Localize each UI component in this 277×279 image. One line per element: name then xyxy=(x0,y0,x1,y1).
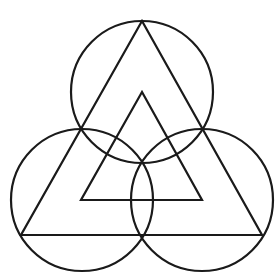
diagram-canvas xyxy=(0,0,277,279)
inner-triangle xyxy=(81,92,202,200)
outer-triangle xyxy=(21,21,262,235)
three-circles-triangle-diagram xyxy=(0,0,277,279)
